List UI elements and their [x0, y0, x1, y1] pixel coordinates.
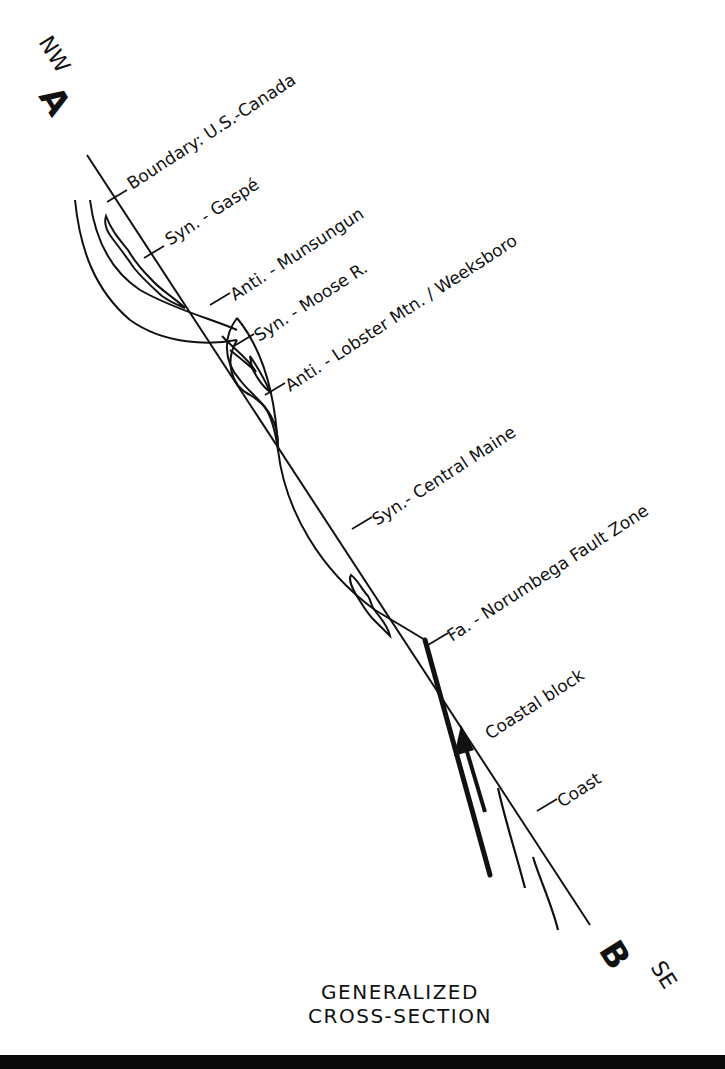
cross-section-diagram: NW A	[0, 0, 725, 1069]
label-syn-gaspe: Syn. - Gaspé	[161, 174, 262, 249]
label-coast: Coast	[553, 768, 605, 811]
label-anti-lobster: Anti. - Lobster Mtn. / Weeksboro	[281, 230, 520, 395]
nw-direction-label: NW	[34, 31, 76, 77]
label-coastal-block: Coastal block	[481, 664, 588, 743]
diagram-title: GENERALIZED CROSS-SECTION	[260, 980, 540, 1028]
label-boundary: Boundary: U.S.-Canada	[123, 69, 299, 193]
label-syn-central-maine: Syn.- Central Maine	[368, 422, 519, 530]
central-maine-syncline-folds	[278, 450, 425, 640]
endpoint-b-label: B	[591, 933, 639, 976]
structure-labels: Boundary: U.S.-Canada Syn. - Gaspé Anti.…	[123, 69, 652, 811]
footer-bar	[0, 1055, 725, 1069]
title-line-1: GENERALIZED	[260, 980, 540, 1004]
endpoint-a-label: A	[31, 79, 79, 123]
label-fa-norumbega: Fa. - Norumbega Fault Zone	[443, 500, 652, 645]
title-line-2: CROSS-SECTION	[260, 1004, 540, 1028]
coastal-faults	[498, 788, 558, 930]
se-direction-label: SE	[646, 956, 682, 993]
